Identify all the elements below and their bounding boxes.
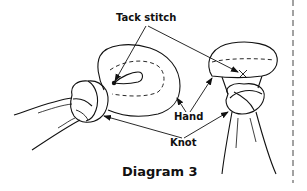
right-fabric xyxy=(256,112,276,174)
left-figure xyxy=(14,45,180,150)
tack-stitch-x xyxy=(239,70,247,78)
right-head-dashed xyxy=(212,59,274,62)
left-hand xyxy=(98,45,180,116)
left-fabric-strand xyxy=(32,120,80,150)
left-fabric-strand xyxy=(14,98,72,115)
right-figure xyxy=(209,42,277,174)
right-knot-fold xyxy=(230,91,262,98)
left-knot-fold xyxy=(73,99,92,106)
tack-stitch-label: Tack stitch xyxy=(116,12,176,23)
hand-leader-left xyxy=(177,98,186,112)
left-hand-inner-dashed xyxy=(110,61,164,96)
tack-stitch-dot xyxy=(112,81,116,85)
hand-leader-right xyxy=(190,78,212,112)
diagram-caption: Diagram 3 xyxy=(122,164,198,179)
left-fabric-strand xyxy=(58,118,75,128)
leader-lines xyxy=(104,26,238,138)
right-knot-fold xyxy=(234,92,254,110)
tack-stitch-leader-right xyxy=(148,26,238,72)
left-hand-tab xyxy=(114,72,143,84)
diagram-3-illustration xyxy=(0,0,307,191)
knot-label: Knot xyxy=(170,137,197,148)
hand-label: Hand xyxy=(174,111,203,122)
knot-leader-left xyxy=(104,116,182,138)
left-knot-fold xyxy=(86,81,98,121)
right-fabric xyxy=(222,112,232,174)
right-head xyxy=(209,42,277,77)
